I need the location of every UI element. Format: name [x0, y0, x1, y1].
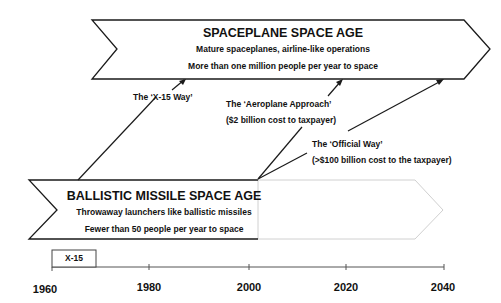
x15-way-label: The ‘X-15 Way’ [133, 92, 193, 102]
official-way-cost: (>$100 billion cost to the taxpayer) [312, 155, 452, 165]
x15-way-line-lower [78, 97, 156, 180]
aeroplane-line-lower [258, 127, 302, 179]
year-1960: 1960 [33, 283, 57, 295]
spaceplane-age-line2: More than one million people per year to… [188, 61, 378, 71]
year-2020: 2020 [334, 281, 358, 293]
x15-program-label: X-15 [65, 253, 83, 263]
aeroplane-approach-label: The ‘Aeroplane Approach’ [226, 99, 331, 109]
spaceplane-age-title: SPACEPLANE SPACE AGE [203, 26, 363, 40]
ballistic-age-line1: Throwaway launchers like ballistic missi… [76, 207, 251, 217]
ballistic-age-line2: Fewer than 50 people per year to space [85, 224, 244, 234]
year-2000: 2000 [237, 281, 261, 293]
ballistic-age-title: BALLISTIC MISSILE SPACE AGE [67, 189, 261, 203]
x15-way-arrowhead-icon [179, 79, 186, 85]
official-way-label: The ‘Official Way’ [312, 139, 383, 149]
year-1980: 1980 [137, 281, 161, 293]
year-2040: 2040 [431, 281, 455, 293]
spaceplane-age-line1: Mature spaceplanes, airline-like operati… [196, 44, 370, 54]
ballistic-age-faded-arrow [258, 180, 443, 239]
official-arrowhead-icon [436, 79, 444, 85]
aeroplane-approach-cost: ($2 billion cost to taxpayer) [226, 115, 336, 125]
official-line-upper [348, 81, 441, 131]
official-line-lower [258, 153, 307, 179]
